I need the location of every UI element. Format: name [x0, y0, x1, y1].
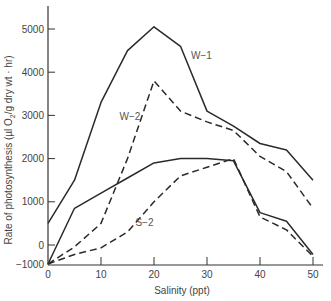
- y-tick-label: 1000: [22, 196, 45, 207]
- x-tick-label: 50: [307, 269, 319, 280]
- y-axis: −1000010002000300040005000: [16, 6, 55, 270]
- series-line-unlabeled: [48, 159, 313, 264]
- x-tick-label: 10: [95, 269, 107, 280]
- series-line-s-2: [48, 159, 313, 264]
- series-label-w-2: W−2: [120, 111, 141, 122]
- x-axis: 01020304050: [45, 257, 323, 280]
- plot-lines: [48, 27, 313, 264]
- y-tick-label: 5000: [22, 24, 45, 35]
- x-tick-label: 40: [254, 269, 266, 280]
- line-chart: 01020304050 −1000010002000300040005000 W…: [0, 0, 331, 301]
- series-label-w-1: W−1: [191, 50, 212, 61]
- y-axis-title: Rate of photosynthesis (µl O2/g dry wt ·…: [3, 55, 16, 244]
- y-tick-label: −1000: [16, 259, 45, 270]
- y-tick-label: 2000: [22, 153, 45, 164]
- x-tick-label: 0: [45, 269, 51, 280]
- series-line-w-1: [48, 27, 313, 224]
- y-tick-label: 3000: [22, 110, 45, 121]
- y-tick-label: 0: [38, 240, 44, 251]
- series-line-w-2: [48, 81, 313, 264]
- x-axis-title: Salinity (ppt): [154, 285, 210, 296]
- series-label-s-2: S−2: [135, 217, 154, 228]
- x-tick-label: 30: [201, 269, 213, 280]
- y-tick-label: 4000: [22, 67, 45, 78]
- x-tick-label: 20: [148, 269, 160, 280]
